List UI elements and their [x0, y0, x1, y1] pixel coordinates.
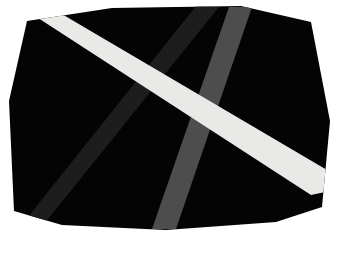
- panel-group: [9, 6, 332, 230]
- abstract-stripes-figure: Black octagonal panel with three diagona…: [0, 0, 337, 263]
- artwork-stage: Black octagonal panel with three diagona…: [0, 0, 337, 263]
